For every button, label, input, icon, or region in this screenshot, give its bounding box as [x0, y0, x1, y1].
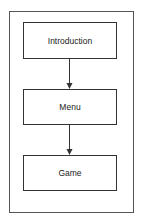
- node-introduction: Introduction: [23, 22, 117, 59]
- node-label: Game: [58, 168, 81, 178]
- arrow-down-icon: [66, 59, 73, 89]
- node-menu: Menu: [23, 89, 117, 125]
- node-label: Menu: [59, 102, 80, 112]
- node-game: Game: [23, 155, 117, 191]
- node-label: Introduction: [48, 36, 92, 46]
- arrow-down-icon: [66, 125, 73, 155]
